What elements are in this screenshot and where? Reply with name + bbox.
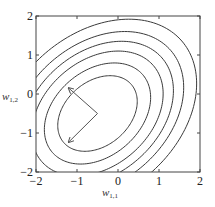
y-tick-label: −1: [20, 126, 33, 140]
x-tick-label: 2: [197, 174, 203, 188]
y-axis-label: w1,2: [2, 90, 19, 104]
y-tick-label: 1: [27, 48, 33, 62]
x-axis-label: w1,1: [102, 186, 119, 200]
eigenvector-arrows: [69, 88, 98, 142]
x-tick-label: −1: [71, 174, 84, 188]
contour-plot: −2−1012210−1−2 w1,1 w1,2: [0, 0, 215, 207]
x-tick-label: 1: [156, 174, 162, 188]
axis-ticks: −2−1012210−1−2: [20, 9, 203, 188]
y-tick-label: 2: [27, 9, 33, 23]
eigenvector-arrow: [69, 88, 98, 113]
y-tick-label: −2: [20, 165, 33, 179]
eigenvector-arrow: [69, 114, 98, 142]
plot-frame: [36, 16, 200, 172]
y-tick-label: 0: [27, 87, 33, 101]
x-tick-label: 0: [115, 174, 121, 188]
